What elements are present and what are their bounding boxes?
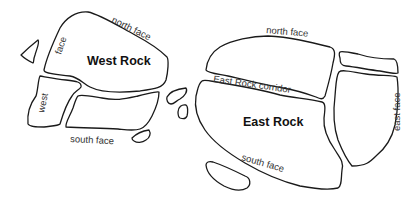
east-rock-group: East Rock north face East Rock corridor …: [195, 24, 402, 190]
west-islet: [21, 40, 39, 63]
west-south-islet: [132, 130, 150, 142]
east-south-face-label: south face: [240, 151, 285, 174]
middle-islet-lower: [178, 105, 188, 119]
west-south-block: [66, 92, 159, 130]
west-rock-group: West Rock north face face west south fac…: [21, 12, 168, 146]
east-upper-small-block: [339, 52, 398, 74]
middle-islet-upper: [167, 88, 187, 104]
west-block: [28, 76, 81, 127]
east-corridor-label: East Rock corridor: [213, 73, 292, 95]
east-rock-main-body: [195, 80, 342, 189]
east-rock-title: East Rock: [243, 115, 303, 129]
east-south-islet: [206, 162, 250, 190]
west-north-face-label: north face: [110, 14, 153, 42]
west-west-label: west: [35, 92, 50, 115]
east-east-face-label: east face: [391, 92, 402, 131]
east-face-block: [334, 71, 398, 166]
middle-islets-group: [167, 88, 188, 119]
west-rock-title: West Rock: [87, 54, 151, 68]
rock-diagram: West Rock north face face west south fac…: [0, 0, 418, 202]
west-south-face-label: south face: [70, 133, 114, 146]
